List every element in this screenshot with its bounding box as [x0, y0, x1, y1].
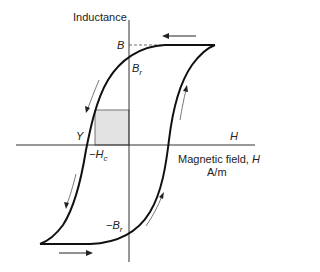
arrow-up-icon: [180, 85, 188, 120]
arrow-right-icon: [59, 250, 93, 256]
remanence-neg-label: −Br: [106, 220, 122, 234]
arrow-left-icon: [162, 33, 196, 39]
shaded-region: [95, 110, 129, 145]
h-axis-end-label: H: [230, 131, 238, 142]
x-axis-label: Magnetic field, H: [178, 154, 260, 165]
x-axis-unit: A/m: [207, 167, 227, 178]
arrow-up-right-icon: [146, 192, 164, 226]
saturation-label: B: [117, 40, 124, 51]
remanence-pos-label: Br: [132, 63, 142, 77]
point-y-label: Y: [76, 131, 83, 142]
y-axis-label: Inductance: [73, 12, 127, 23]
coercivity-label: −Hc: [89, 149, 107, 163]
